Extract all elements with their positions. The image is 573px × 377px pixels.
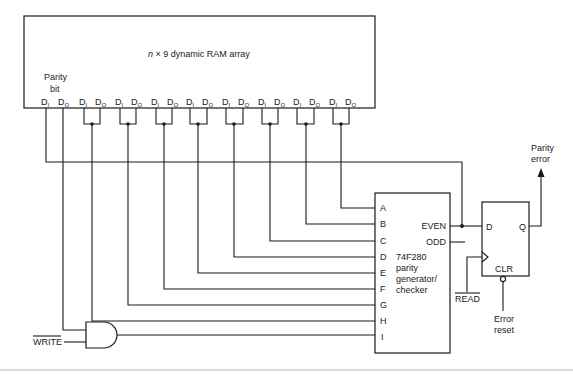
parity-error-label-1: Parity	[531, 143, 555, 153]
and-gate	[86, 322, 117, 348]
svg-text:G: G	[380, 300, 387, 310]
parity-bit-label-2: bit	[50, 84, 60, 94]
read-clock-wire	[467, 257, 482, 292]
parity-bit-label-1: Parity	[44, 72, 68, 82]
svg-text:I: I	[381, 332, 384, 342]
ff-clr-label: CLR	[495, 264, 514, 274]
wire-to-A	[341, 124, 375, 208]
svg-text:D: D	[380, 252, 387, 262]
clr-inversion-bubble	[500, 276, 505, 281]
wire-to-D	[234, 124, 375, 257]
svg-text:E: E	[380, 268, 386, 278]
ff-d-label: D	[486, 222, 493, 232]
ram-array-title: n × 9 dynamic RAM array	[148, 49, 250, 59]
data-bit-bridges	[84, 108, 349, 126]
parity-chip-74f280	[375, 193, 450, 353]
svg-text:H: H	[380, 316, 387, 326]
write-label: WRITE	[33, 337, 62, 347]
error-reset-label-1: Error	[494, 314, 514, 324]
chip-input-labels: A B C D E F G H I	[380, 203, 387, 342]
chip-desc-2: generator/	[396, 274, 438, 284]
ram-array-box	[24, 16, 375, 108]
parity-read-wire	[63, 108, 86, 330]
error-reset-label-2: reset	[494, 325, 515, 335]
odd-output-label: ODD	[426, 237, 447, 247]
wire-to-G	[128, 124, 375, 305]
chip-desc-3: checker	[396, 285, 428, 295]
junction-dot	[460, 224, 464, 228]
parity-error-label-2: error	[531, 154, 550, 164]
parity-circuit-diagram: n × 9 dynamic RAM array Parity bit DIDO …	[0, 0, 573, 377]
svg-text:A: A	[380, 203, 386, 213]
svg-text:F: F	[380, 284, 386, 294]
chip-desc-1: parity	[396, 263, 419, 273]
svg-text:C: C	[380, 236, 387, 246]
chip-part-number: 74F280	[396, 252, 427, 262]
data-wires	[92, 124, 375, 321]
even-output-label: EVEN	[421, 221, 446, 231]
read-label: READ	[455, 294, 481, 304]
svg-text:B: B	[380, 219, 386, 229]
wire-to-E	[198, 124, 375, 273]
arrow-up-icon	[538, 168, 545, 177]
ff-q-label: Q	[519, 222, 526, 232]
q-output-wire	[529, 175, 541, 226]
